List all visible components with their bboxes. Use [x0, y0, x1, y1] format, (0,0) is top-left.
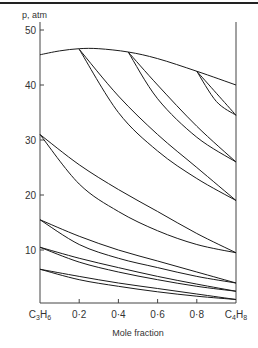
phase-diagram-chart: 1020304050 C3H60·20·40·60·8C4H8 p, atm M…	[0, 0, 258, 348]
loop-a-lower-curve	[79, 49, 236, 200]
loop-a-upper-curve	[79, 49, 236, 200]
y-tick-label: 40	[25, 80, 37, 91]
x-tick-label: 0·4	[111, 309, 126, 320]
loop-b-upper-curve	[128, 52, 236, 162]
y-axis-label: p, atm	[22, 10, 47, 20]
y-tick-label: 10	[25, 245, 37, 256]
loop-10-lower-curve	[40, 247, 236, 291]
loop-b-lower-curve	[128, 52, 236, 162]
curves	[40, 48, 236, 299]
loop-31-upper-curve	[40, 135, 236, 253]
y-ticks: 1020304050	[25, 25, 44, 256]
x-axis-label: Mole fraction	[112, 328, 164, 338]
x-ticks: C3H60·20·40·60·8C4H8	[29, 299, 247, 321]
x-tick-label: 0·6	[150, 309, 165, 320]
loop-15-upper-curve	[40, 220, 236, 283]
y-tick-label: 50	[25, 25, 37, 36]
critical-locus-curve	[40, 48, 236, 85]
x-tick-label: C3H6	[29, 309, 51, 321]
x-tick-label: C4H8	[225, 309, 247, 321]
axes	[40, 22, 236, 303]
loop-6-upper-curve	[40, 269, 236, 299]
loop-10-upper-curve	[40, 247, 236, 291]
loop-31-lower-curve	[40, 135, 236, 253]
y-tick-label: 30	[25, 135, 37, 146]
y-tick-label: 20	[25, 190, 37, 201]
x-tick-label: 0·8	[190, 309, 205, 320]
loop-15-lower-curve	[40, 220, 236, 283]
x-tick-label: 0·2	[72, 309, 87, 320]
